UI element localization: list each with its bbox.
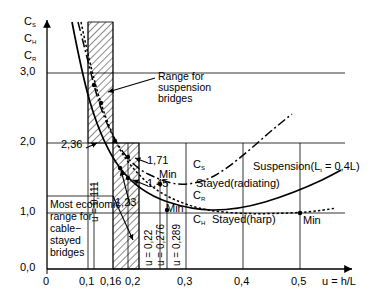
- y-tick-0: 0,0: [20, 262, 35, 274]
- x-tick-0-16: 0,16: [100, 276, 121, 288]
- y-tick-2: 2,0: [20, 136, 35, 148]
- value-label-171: 1,71: [147, 155, 168, 167]
- y-axis-label-cr: CR: [24, 50, 36, 62]
- x-tick-0-1: 0,1: [79, 276, 94, 288]
- u-marker-label-0-22: u = 0,22: [144, 230, 155, 266]
- x-tick-0-5: 0,5: [291, 276, 306, 288]
- x-tick-0-4: 0,4: [234, 276, 249, 288]
- min-label-ch: Min: [303, 215, 321, 227]
- value-label-236: 2,36: [61, 139, 82, 151]
- note-suspension-range-line3: bridges: [158, 93, 192, 104]
- u-marker-label-0-111: u = 0,111: [90, 182, 101, 223]
- leader-suspension-range: [108, 78, 155, 92]
- note-economic-line2: range for: [50, 211, 92, 222]
- curve-symbol-cr: CR: [193, 190, 205, 202]
- curve-symbol-ch: CH: [193, 214, 205, 226]
- note-economic-line1: Most economic: [50, 199, 121, 210]
- value-label-123: 1,23: [115, 197, 136, 209]
- x-tick-0-2: 0,2: [125, 276, 140, 288]
- x-axis-caption: u = h/L: [322, 276, 356, 288]
- y-tick-1: 1,0: [20, 206, 35, 218]
- u-marker-label-0-289: u = 0,289: [172, 224, 183, 266]
- chart-figure: CS CH CR 3,0 2,0 1,0 0,0 0 0,1 0,16 0,2 …: [0, 0, 374, 307]
- curve-name-suspension: Suspension(Lt = 0,4L): [253, 161, 360, 173]
- note-economic-line3: cable−: [50, 223, 81, 234]
- note-economic-line4: stayed: [50, 235, 81, 246]
- chart-canvas: [0, 0, 374, 307]
- curve-name-stayed-radiating: Stayed(radiating): [196, 178, 280, 190]
- y-axis-label-cs: CS: [24, 16, 36, 28]
- note-economic-line5: bridges: [50, 247, 84, 258]
- y-axis-label-ch: CH: [24, 33, 36, 45]
- min-label-cr: Min: [166, 203, 184, 215]
- u-marker-label-0-276: u = 0,276: [156, 224, 167, 266]
- y-tick-3: 3,0: [20, 66, 35, 78]
- curve-name-stayed-harp: Stayed(harp): [212, 214, 276, 226]
- x-tick-0-3: 0,3: [177, 276, 192, 288]
- x-tick-0: 0: [43, 276, 49, 288]
- min-label-cs: Min: [159, 169, 177, 181]
- curve-symbol-cs: CS: [193, 159, 205, 171]
